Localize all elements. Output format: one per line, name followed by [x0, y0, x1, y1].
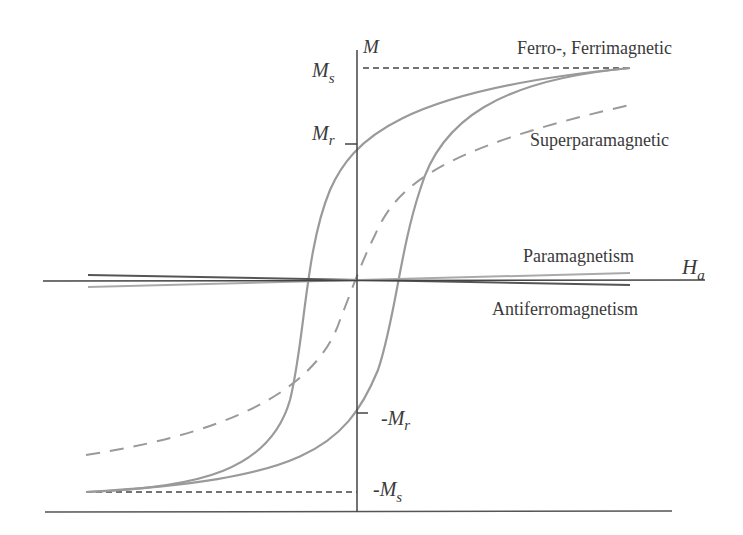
bottom-baseline — [45, 511, 672, 512]
paramagnetism-label: Paramagnetism — [523, 246, 634, 266]
ms-label: Ms — [311, 59, 335, 86]
h-axis — [43, 280, 705, 281]
neg-ms-label: -Ms — [373, 478, 402, 505]
magnetization-diagram: M Ha Ms Mr -Mr -Ms Ferro-, Ferrimagnetic… — [0, 0, 743, 535]
mr-label: Mr — [311, 122, 335, 148]
superparamagnetic-label: Superparamagnetic — [530, 130, 669, 150]
ferro-label: Ferro-, Ferrimagnetic — [517, 38, 672, 58]
m-axis-label: M — [362, 36, 380, 57]
h-axis-label: Ha — [681, 255, 705, 283]
neg-mr-label: -Mr — [381, 407, 410, 433]
antiferromagnetism-label: Antiferromagnetism — [492, 299, 638, 319]
